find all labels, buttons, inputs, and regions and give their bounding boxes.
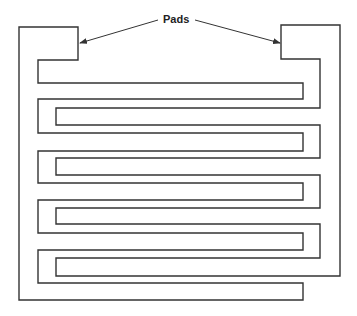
right-pad-arrow (195, 20, 280, 43)
left-comb-electrode (19, 27, 303, 300)
left-pad-arrow (80, 20, 158, 43)
pads-label: Pads (163, 14, 189, 25)
comb-diagram (0, 0, 357, 316)
